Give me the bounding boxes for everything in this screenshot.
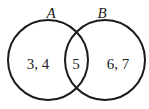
region-b-only: 6, 7 [107,56,130,72]
set-a-label: A [45,5,56,21]
venn-diagram: A B 3, 4 5 6, 7 [0,0,149,109]
region-a-only: 3, 4 [27,56,50,72]
region-intersection: 5 [72,56,80,72]
set-b-label: B [97,5,106,21]
